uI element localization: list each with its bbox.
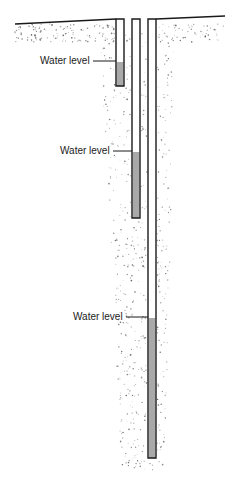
shallow-well <box>116 19 124 86</box>
wells <box>116 19 156 458</box>
water-level-label-1: Water level <box>40 55 90 67</box>
wells-diagram <box>0 0 240 477</box>
water-level-label-3: Water level <box>73 311 123 323</box>
medium-well <box>132 19 140 218</box>
soil-texture <box>14 23 224 470</box>
water-level-label-2: Water level <box>60 145 110 157</box>
deep-well <box>148 19 156 458</box>
ground-surface <box>15 16 225 24</box>
